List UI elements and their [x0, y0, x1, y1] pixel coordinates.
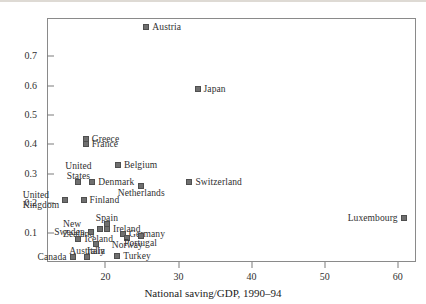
data-point[interactable]: [186, 179, 192, 185]
x-tick-mark: [105, 262, 106, 268]
data-point-label: Denmark: [98, 177, 134, 187]
data-point-label: Portugal: [124, 238, 157, 248]
x-tick-label: 30: [174, 272, 184, 282]
y-tick-mark: [47, 115, 54, 116]
y-tick-label: 0.4: [25, 139, 38, 149]
data-point[interactable]: [143, 24, 149, 30]
data-point[interactable]: [104, 226, 110, 232]
data-point-label: Switzerland: [195, 177, 241, 187]
data-point-label: UnitedStates: [65, 161, 91, 181]
data-point[interactable]: [401, 215, 407, 221]
y-tick-label: 0.5: [25, 110, 38, 120]
y-tick-label: 0.3: [25, 169, 38, 179]
data-point[interactable]: [83, 141, 89, 147]
data-point-label: Belgium: [124, 160, 157, 170]
figure-container: 0.10.20.30.40.50.60.7 2030405060 Austria…: [0, 0, 426, 304]
y-tick-label: 0.1: [25, 228, 38, 238]
data-point[interactable]: [75, 236, 81, 242]
x-tick-label: 40: [247, 272, 257, 282]
y-tick-mark: [47, 232, 54, 233]
data-point[interactable]: [89, 179, 95, 185]
x-tick-label: 20: [100, 272, 110, 282]
data-point-label: UnitedKingdom: [23, 190, 60, 210]
data-point-label: Austria: [152, 22, 181, 32]
data-point[interactable]: [97, 226, 103, 232]
data-point-label: Spain: [96, 213, 118, 223]
data-point[interactable]: [115, 162, 121, 168]
data-point-label: Finland: [90, 195, 120, 205]
x-tick-mark: [178, 262, 179, 268]
x-tick-mark: [324, 262, 325, 268]
y-tick-mark: [47, 85, 54, 86]
y-tick-mark: [47, 56, 54, 57]
y-tick-mark: [47, 173, 54, 174]
y-tick-mark: [47, 144, 54, 145]
data-point-label: Luxembourg: [348, 213, 398, 223]
data-point-label: Australia: [69, 246, 105, 256]
data-point[interactable]: [195, 86, 201, 92]
data-point-label: Japan: [204, 84, 226, 94]
y-tick-label: 0.7: [25, 51, 38, 61]
x-axis-title: National saving/GDP, 1990–94: [144, 287, 281, 299]
x-tick-mark: [397, 262, 398, 268]
data-point[interactable]: [114, 253, 120, 259]
x-tick-label: 50: [320, 272, 330, 282]
data-point-label: Turkey: [123, 251, 151, 261]
data-point[interactable]: [81, 197, 87, 203]
y-tick-label: 0.6: [25, 81, 38, 91]
page-top-rule: [0, 0, 426, 2]
data-point[interactable]: [62, 197, 68, 203]
x-tick-mark: [251, 262, 252, 268]
x-tick-label: 60: [393, 272, 403, 282]
data-point-label: France: [92, 139, 118, 149]
data-point-label: Canada: [37, 252, 66, 262]
data-point-label: Netherlands: [118, 188, 165, 198]
